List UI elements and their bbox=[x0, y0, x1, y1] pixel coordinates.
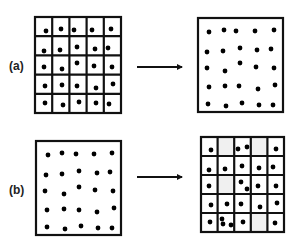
panel-a-left-particle-dot bbox=[75, 45, 80, 50]
panel-b-grid-with-particles bbox=[201, 137, 284, 232]
panel-a bbox=[35, 17, 283, 113]
panel-b-left-particle-dot bbox=[96, 226, 101, 231]
panel-a-left-particle-dot bbox=[43, 101, 48, 106]
panel-b-right-particle-dot bbox=[245, 187, 250, 192]
panel-b-right-shaded-cell bbox=[251, 213, 268, 232]
panel-a-right-particle-dot bbox=[205, 50, 210, 55]
panel-b-left-particle-dot bbox=[108, 170, 113, 175]
panel-b-right-particle-dot bbox=[209, 203, 214, 208]
panel-a-right-particle-dot bbox=[256, 87, 261, 92]
panel-b-left-particle-dot bbox=[111, 189, 116, 194]
panel-b-right-particle-dot bbox=[257, 166, 262, 171]
panel-b-left-particle-dot bbox=[62, 207, 67, 212]
panel-a-right-particle-dot bbox=[205, 66, 210, 71]
panel-b-left-particle-dot bbox=[77, 208, 82, 213]
panel-b-label: (b) bbox=[9, 183, 24, 197]
panel-a-right-particle-dot bbox=[272, 66, 277, 71]
panel-a-left-particle-dot bbox=[106, 46, 111, 51]
panel-b-left-particle-dot bbox=[45, 225, 50, 230]
panel-b-right-particle-dot bbox=[209, 148, 214, 153]
panel-a-right-particle-dot bbox=[255, 48, 260, 53]
panel-b-left-particle-dot bbox=[63, 227, 68, 232]
panel-b bbox=[36, 137, 284, 235]
panel-a-right-particle-dot bbox=[253, 29, 258, 34]
panel-a-left-particle-dot bbox=[109, 27, 114, 32]
panel-b-left-particle-dot bbox=[62, 192, 67, 197]
panel-a-right-particle-dot bbox=[240, 101, 245, 106]
panel-b-left-particle-dot bbox=[110, 226, 115, 231]
panel-a-grid-with-particles bbox=[35, 17, 121, 113]
panel-b-right-particle-dot bbox=[223, 167, 228, 172]
panel-a-right-particle-dot bbox=[271, 103, 276, 108]
panel-b-right-particle-dot bbox=[271, 165, 276, 170]
panel-a-left-particle-dot bbox=[111, 82, 116, 87]
panel-a-label: (a) bbox=[9, 59, 24, 73]
panel-a-right-particle-dot bbox=[234, 29, 239, 34]
panel-a-left-particle-dot bbox=[59, 27, 64, 32]
panel-a-left-particle-dot bbox=[94, 86, 99, 91]
panel-b-right-particle-dot bbox=[239, 180, 244, 185]
panel-a-right-particle-dot bbox=[206, 102, 211, 107]
panel-a-left-particle-dot bbox=[75, 84, 80, 89]
panel-b-left-particle-dot bbox=[112, 206, 117, 211]
panel-a-right-particle-dot bbox=[257, 103, 262, 108]
panel-a-right-particle-dot bbox=[238, 61, 243, 66]
panel-a-left-particle-dot bbox=[72, 28, 77, 33]
panel-a-right-particle-dot bbox=[221, 49, 226, 54]
panel-b-left-particle-dot bbox=[92, 152, 97, 157]
panel-b-left-particle-dot bbox=[79, 224, 84, 229]
panel-b-left-particle-dot bbox=[95, 210, 100, 215]
panel-b-left-particle-dot bbox=[45, 208, 50, 213]
panel-a-right-particle-dot bbox=[224, 104, 229, 109]
panel-b-right-particle-dot bbox=[245, 145, 250, 150]
panel-a-left-particle-dot bbox=[60, 67, 65, 72]
panel-a-left-particle-dot bbox=[92, 64, 97, 69]
panel-a-left-particle-dot bbox=[42, 49, 47, 54]
panel-b-right-shaded-cell bbox=[251, 137, 268, 156]
panel-b-right-particle-dot bbox=[241, 220, 246, 225]
panel-b-left-particle-dot bbox=[60, 172, 65, 177]
panel-b-left-particle-dot bbox=[60, 151, 65, 156]
panel-a-left-particle-dot bbox=[90, 28, 95, 33]
panel-a-left-particle-dot bbox=[110, 65, 115, 70]
panel-a-right-particle-dot bbox=[269, 47, 274, 52]
panel-b-left-particle-dot bbox=[43, 189, 48, 194]
panel-a-right-particle-dot bbox=[207, 85, 212, 90]
panel-b-right-particle-dot bbox=[220, 217, 225, 222]
panel-b-right-particle-dot bbox=[207, 184, 212, 189]
panel-b-right-particle-dot bbox=[274, 147, 279, 152]
panel-a-left-particle-dot bbox=[77, 100, 82, 105]
panel-b-right-particle-dot bbox=[240, 164, 245, 169]
panel-a-right-particle-dot bbox=[222, 28, 227, 33]
panel-a-right-particle-dot bbox=[273, 83, 278, 88]
panel-a-left-particle-dot bbox=[44, 29, 49, 34]
diagram-canvas bbox=[0, 0, 301, 245]
panel-b-right-shaded-cell bbox=[218, 137, 235, 156]
panel-b-right-particle-dot bbox=[274, 184, 279, 189]
panel-b-right-particle-dot bbox=[275, 201, 280, 206]
panel-a-right-particle-dot bbox=[223, 84, 228, 89]
panel-b-right-particle-dot bbox=[221, 222, 226, 227]
panel-b-box-with-particles bbox=[36, 141, 121, 235]
panel-a-left-particle-dot bbox=[61, 103, 66, 108]
panel-a-left-particle-dot bbox=[43, 84, 48, 89]
panel-b-left-particle-dot bbox=[110, 151, 115, 156]
panel-b-left-particle-dot bbox=[74, 152, 79, 157]
panel-b-right-particle-dot bbox=[207, 168, 212, 173]
panel-a-left-particle-dot bbox=[42, 65, 47, 70]
panel-a-right-particle-dot bbox=[223, 69, 228, 74]
panel-b-right-border bbox=[201, 137, 284, 232]
panel-a-left-particle-dot bbox=[60, 83, 65, 88]
panel-b-right-particle-dot bbox=[229, 223, 234, 228]
panel-a-left-particle-dot bbox=[93, 47, 98, 52]
panel-b-left-particle-dot bbox=[95, 171, 100, 176]
panel-b-right-particle-dot bbox=[208, 220, 213, 225]
panel-b-right-particle-dot bbox=[273, 221, 278, 226]
panel-b-right-particle-dot bbox=[258, 205, 263, 210]
panel-b-right-shaded-cell bbox=[218, 175, 235, 194]
panel-b-right-particle-dot bbox=[239, 202, 244, 207]
panel-a-right-particle-dot bbox=[254, 65, 259, 70]
panel-b-left-particle-dot bbox=[46, 153, 51, 158]
panel-b-left-particle-dot bbox=[77, 169, 82, 174]
panel-a-left-particle-dot bbox=[107, 102, 112, 107]
